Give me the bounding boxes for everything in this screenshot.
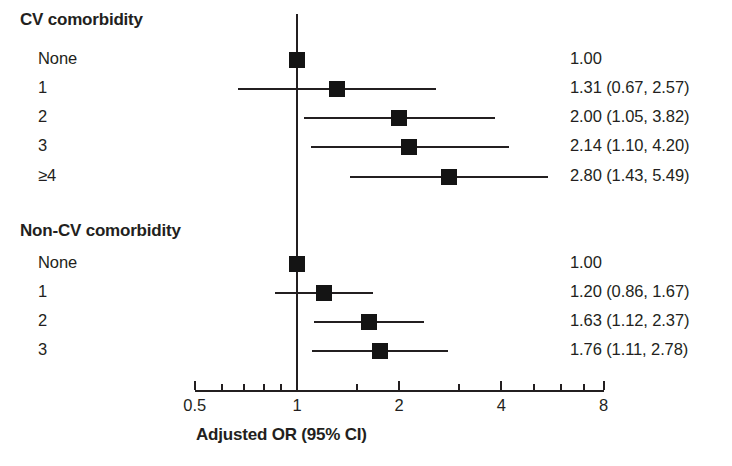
row-label-0-3: 3: [38, 136, 47, 155]
x-axis-tick-minor-6: [533, 384, 535, 390]
x-axis-tick-minor-5: [458, 384, 460, 390]
x-axis-tick-major-1: [296, 381, 298, 390]
row-label-0-2: 2: [38, 107, 47, 126]
x-axis-tick-major-2: [398, 381, 400, 390]
x-axis-tick-minor-1: [243, 384, 245, 390]
x-axis-tick-minor-8: [583, 384, 585, 390]
row-estimate-1-3: 1.76 (1.11, 2.78): [570, 340, 688, 359]
row-estimate-0-2: 2.00 (1.05, 3.82): [570, 107, 689, 126]
row-estimate-1-2: 1.63 (1.12, 2.37): [570, 311, 689, 330]
x-axis-tick-major-4: [603, 381, 605, 390]
x-axis-tick-minor-7: [560, 384, 562, 390]
row-estimate-0-4: 2.80 (1.43, 5.49): [570, 166, 689, 185]
x-axis-tick-minor-4: [356, 384, 358, 390]
row-estimate-1-1: 1.20 (0.86, 1.67): [570, 282, 689, 301]
row-label-0-0: None: [38, 49, 77, 68]
x-axis-tick-major-0: [194, 381, 196, 390]
row-estimate-0-3: 2.14 (1.10, 4.20): [570, 136, 689, 155]
point-estimate-marker-0-4: [441, 169, 457, 185]
row-estimate-1-0: 1.00: [570, 253, 602, 272]
point-estimate-marker-1-1: [316, 285, 332, 301]
x-axis-tick-label-4: 8: [574, 396, 634, 415]
x-axis-tick-label-1: 1: [267, 396, 327, 415]
point-estimate-marker-0-0: [289, 52, 305, 68]
group-header-0: CV comorbidity: [20, 10, 143, 30]
row-estimate-0-0: 1.00: [570, 49, 602, 68]
row-label-1-3: 3: [38, 340, 47, 359]
point-estimate-marker-1-0: [289, 256, 305, 272]
group-header-1: Non-CV comorbidity: [20, 221, 181, 241]
point-estimate-marker-1-3: [372, 343, 388, 359]
x-axis-tick-label-3: 4: [471, 396, 531, 415]
row-label-0-1: 1: [38, 78, 47, 97]
x-axis-tick-minor-0: [221, 384, 223, 390]
x-axis-tick-minor-3: [280, 384, 282, 390]
point-estimate-marker-0-1: [329, 81, 345, 97]
row-label-1-1: 1: [38, 282, 47, 301]
row-label-1-0: None: [38, 253, 77, 272]
row-label-0-4: ≥4: [38, 166, 56, 185]
x-axis-tick-minor-2: [263, 384, 265, 390]
x-axis-caption: Adjusted OR (95% CI): [196, 425, 367, 445]
row-estimate-0-1: 1.31 (0.67, 2.57): [570, 78, 689, 97]
x-axis-tick-label-2: 2: [369, 396, 429, 415]
x-axis-tick-label-0: 0.5: [165, 396, 225, 415]
point-estimate-marker-0-2: [391, 110, 407, 126]
reference-line-at-1: [296, 14, 298, 390]
point-estimate-marker-0-3: [401, 139, 417, 155]
row-label-1-2: 2: [38, 311, 47, 330]
point-estimate-marker-1-2: [361, 314, 377, 330]
x-axis-line: [195, 390, 604, 392]
forest-plot: CV comorbidityNone1.0011.31 (0.67, 2.57)…: [0, 0, 732, 466]
x-axis-tick-major-3: [500, 381, 502, 390]
